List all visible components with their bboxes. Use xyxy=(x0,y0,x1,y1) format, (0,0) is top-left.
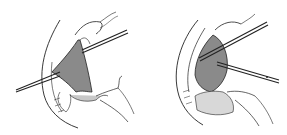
left-illustration-panel xyxy=(0,0,143,135)
illustration-figure xyxy=(0,0,287,135)
left-surgical-drawing xyxy=(0,0,143,135)
right-illustration-panel xyxy=(143,0,286,135)
right-surgical-drawing xyxy=(143,0,286,135)
